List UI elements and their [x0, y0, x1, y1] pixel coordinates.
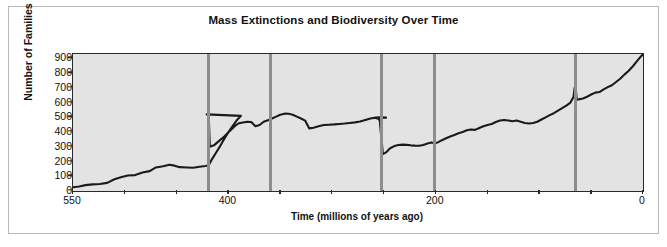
- y-tick-label: 400: [38, 125, 72, 137]
- y-axis: 0100200300400500600700800900: [30, 53, 72, 190]
- x-axis: 5504002000: [72, 190, 642, 210]
- y-tick-label: 100: [38, 169, 72, 181]
- y-tick-label: 300: [38, 140, 72, 152]
- x-tick-mark: [487, 190, 488, 194]
- x-tick-mark: [124, 190, 125, 194]
- extinction-marker-cretaceous-paleogene: [574, 54, 577, 191]
- y-tick-label: 600: [38, 96, 72, 108]
- extinction-marker-ordovician-silurian: [207, 54, 210, 191]
- x-tick-mark: [590, 190, 591, 194]
- y-tick-label: 500: [38, 110, 72, 122]
- x-tick-mark: [538, 190, 539, 194]
- series-line: [73, 54, 643, 187]
- x-tick-mark: [383, 190, 384, 194]
- x-tick-mark: [279, 190, 280, 194]
- y-tick-label: 200: [38, 155, 72, 167]
- x-tick-label: 550: [63, 194, 81, 206]
- y-tick-label: 900: [38, 51, 72, 63]
- plot-area: [72, 53, 644, 192]
- y-tick-label: 700: [38, 81, 72, 93]
- x-tick-mark: [331, 190, 332, 194]
- x-tick-label: 0: [639, 194, 645, 206]
- y-tick-label: 800: [38, 66, 72, 78]
- x-tick-mark: [176, 190, 177, 194]
- x-axis-label: Time (millions of years ago): [72, 211, 642, 222]
- extinction-marker-triassic-jurassic: [433, 54, 436, 191]
- chart-title: Mass Extinctions and Biodiversity Over T…: [0, 14, 667, 26]
- biodiversity-line: [73, 54, 643, 191]
- chart-figure: Mass Extinctions and Biodiversity Over T…: [0, 0, 667, 247]
- extinction-marker-late-devonian: [269, 54, 272, 191]
- x-tick-label: 200: [426, 194, 444, 206]
- x-tick-label: 400: [219, 194, 237, 206]
- extinction-marker-permian-triassic: [380, 54, 383, 191]
